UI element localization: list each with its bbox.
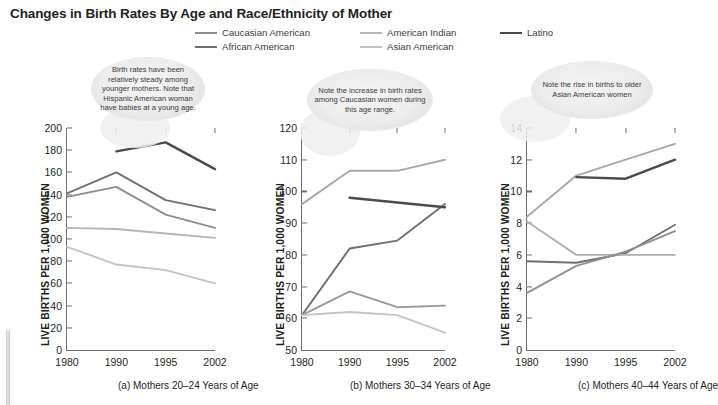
annotation-bubble-1: Birth rates have been relatively steady …	[92, 58, 204, 120]
plot-area: 50607080901001101201980199019952002	[301, 128, 445, 351]
legend-swatch	[195, 32, 217, 34]
series-line-latino	[576, 160, 675, 179]
x-axis-tick-label: 1980	[515, 350, 538, 368]
y-axis-tick-label: 2	[516, 312, 527, 324]
series-layer	[67, 128, 217, 352]
y-axis-tick-label: 10	[510, 185, 527, 197]
legend-swatch	[500, 32, 522, 34]
legend-label: Asian American	[387, 41, 454, 52]
series-layer	[527, 128, 677, 352]
x-axis-tick-label: 1990	[105, 350, 128, 368]
y-axis-tick-label: 160	[44, 166, 67, 178]
y-axis-tick-label: 70	[285, 281, 302, 293]
annotation-text: Note the rise in births to older Asian A…	[532, 80, 652, 99]
chart-caption-a: (a) Mothers 20–24 Years of Age	[118, 380, 259, 391]
x-axis-tick-label: 2002	[663, 350, 686, 368]
annotation-bubble-2: Note the increase in birth rates among C…	[308, 70, 432, 130]
x-axis-tick-label: 1990	[565, 350, 588, 368]
annotation-text: Note the increase in birth rates among C…	[308, 86, 432, 115]
series-line-american-indian	[67, 228, 215, 238]
y-axis-tick-label: 40	[50, 300, 67, 312]
series-layer	[302, 128, 447, 352]
x-axis-tick-label: 2002	[203, 350, 226, 368]
annotation-bubble-3: Note the rise in births to older Asian A…	[532, 62, 652, 118]
plot-area: 024681012141980199019952002	[526, 128, 675, 351]
y-axis-title: LIVE BIRTHS PER 1,000 WOMEN	[40, 183, 51, 346]
series-line-caucasian-american	[527, 144, 675, 217]
legend-label: African American	[222, 41, 295, 52]
chart-caption-c: (c) Mothers 40–44 Years of Age	[578, 380, 718, 391]
series-line-african-american	[527, 225, 675, 263]
legend-label: American Indian	[387, 27, 456, 38]
y-axis-tick-label: 110	[280, 154, 302, 166]
y-axis-tick-label: 6	[516, 249, 527, 261]
y-axis-tick-label: 120	[279, 122, 302, 134]
series-line-asian-american	[67, 247, 215, 284]
legend-label: Latino	[527, 27, 553, 38]
series-line-african-american	[67, 172, 215, 210]
series-line-caucasian-american	[67, 187, 215, 228]
series-line-caucasian-american	[302, 160, 445, 204]
series-line-american-indian	[302, 291, 445, 315]
left-edge-rule	[6, 330, 10, 405]
x-axis-tick-label: 1995	[614, 350, 637, 368]
y-axis-tick-label: 80	[50, 255, 67, 267]
y-axis-tick-label: 20	[50, 322, 67, 334]
legend-swatch	[360, 46, 382, 48]
x-axis-tick-label: 1995	[154, 350, 177, 368]
y-axis-tick-label: 200	[44, 122, 67, 134]
x-axis-tick-label: 1980	[55, 350, 78, 368]
legend-swatch	[195, 46, 217, 48]
x-axis-tick-label: 2002	[433, 350, 456, 368]
plot-area: 0204060801001201401601802001980199019952…	[66, 128, 215, 351]
legend-label: Caucasian American	[222, 27, 310, 38]
y-axis-tick-label: 180	[44, 144, 67, 156]
x-axis-tick-label: 1990	[338, 350, 361, 368]
x-axis-tick-label: 1995	[386, 350, 409, 368]
chart-caption-b: (b) Mothers 30–34 Years of Age	[350, 380, 491, 391]
annotation-text: Birth rates have been relatively steady …	[92, 65, 204, 113]
series-line-latino	[350, 198, 445, 208]
y-axis-tick-label: 8	[516, 217, 527, 229]
series-line-asian-american	[302, 312, 445, 333]
y-axis-tick-label: 90	[285, 217, 302, 229]
y-axis-title: LIVE BIRTHS PER 1,000 WOMEN	[275, 183, 286, 346]
legend-swatch	[360, 32, 382, 34]
y-axis-title: LIVE BIRTHS PER 1,000 WOMEN	[500, 183, 511, 346]
y-axis-tick-label: 12	[510, 154, 527, 166]
legend: Caucasian AmericanAfrican AmericanAmeric…	[195, 27, 615, 59]
y-axis-tick-label: 4	[516, 281, 527, 293]
y-axis-tick-label: 60	[285, 312, 302, 324]
page-title: Changes in Birth Rates By Age and Race/E…	[10, 6, 392, 21]
y-axis-tick-label: 60	[50, 277, 67, 289]
y-axis-tick-label: 80	[285, 249, 302, 261]
x-axis-tick-label: 1980	[290, 350, 313, 368]
